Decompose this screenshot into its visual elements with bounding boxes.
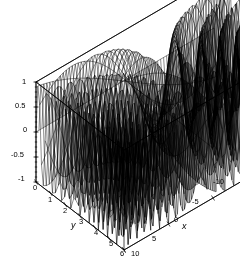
surface-plot-canvas [0, 0, 240, 269]
y-tick-label: 2 [63, 207, 67, 215]
z-tick-label: -1 [18, 175, 25, 183]
z-tick-label: -0.5 [11, 151, 24, 159]
y-tick-label: 1 [48, 196, 52, 204]
y-tick-label: 0 [33, 184, 37, 192]
x-tick-label: 10 [131, 250, 139, 258]
x-tick-label: 5 [152, 235, 156, 243]
surface-plot-figure: 1 0.5 0 -0.5 -1 0 1 2 3 4 5 6 10 5 0 -5 … [0, 0, 240, 269]
x-tick-label: -10 [213, 178, 224, 186]
y-tick-label: 4 [94, 229, 98, 237]
y-axis-label: y [71, 221, 76, 229]
y-tick-label: 3 [79, 218, 83, 226]
y-tick-label: 5 [109, 240, 113, 248]
x-axis-label: x [182, 222, 187, 230]
y-tick-label: 6 [120, 250, 124, 258]
z-tick-label: 0.5 [15, 102, 25, 110]
z-tick-label: 0 [23, 126, 27, 134]
z-tick-label: 1 [22, 78, 26, 86]
x-tick-label: 0 [174, 216, 178, 224]
x-tick-label: -5 [192, 198, 199, 206]
